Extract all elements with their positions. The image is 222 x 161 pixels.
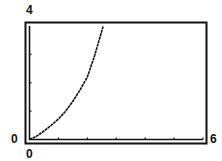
plot-frame [26, 23, 207, 144]
data-curve [30, 26, 104, 140]
plot-area [0, 0, 222, 161]
axis-ticks [30, 54, 204, 139]
